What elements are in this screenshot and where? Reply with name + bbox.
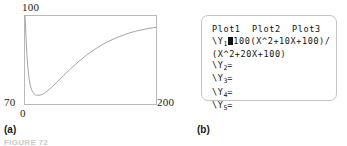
y1-entry-row[interactable]: \Y1100(X^2+10X+100)/	[212, 36, 336, 50]
y2-entry-row[interactable]: \Y2=	[212, 60, 336, 74]
y5-entry-row[interactable]: \Y5=	[212, 100, 336, 114]
y3-label: \Y3	[212, 73, 227, 83]
y2-equals: =	[227, 60, 233, 70]
plot-curve-svg	[24, 15, 157, 105]
plot-header-row[interactable]: Plot1 Plot2 Plot3	[212, 24, 336, 35]
y4-entry-row[interactable]: \Y4=	[212, 87, 336, 101]
curve-path	[25, 16, 156, 96]
y-axis-min-label: 70	[4, 96, 15, 108]
y5-label: \Y5	[212, 100, 227, 110]
figure-caption: FIGURE 72	[4, 138, 48, 146]
panel-a-graph: 100 70 0 200 (a) FIGURE 72	[0, 0, 175, 146]
y1-entry-row-continued[interactable]: (X^2+20X+100)	[212, 49, 336, 60]
x-axis-min-label: 0	[20, 107, 26, 119]
y1-label: \Y1	[212, 36, 227, 46]
y3-entry-row[interactable]: \Y3=	[212, 73, 336, 87]
panel-a-label: (a)	[4, 124, 16, 135]
y1-expression: 100(X^2+10X+100)/	[233, 36, 330, 46]
y-axis-max-label: 100	[22, 1, 39, 13]
y5-equals: =	[227, 100, 233, 110]
figure-container: 100 70 0 200 (a) FIGURE 72 Plot1 Plot2 P…	[0, 0, 347, 146]
calculator-screen[interactable]: Plot1 Plot2 Plot3 \Y1100(X^2+10X+100)/ (…	[201, 15, 337, 101]
y3-equals: =	[227, 73, 233, 83]
y4-label: \Y4	[212, 87, 227, 97]
y2-label: \Y2	[212, 60, 227, 70]
panel-b-calculator: Plot1 Plot2 Plot3 \Y1100(X^2+10X+100)/ (…	[175, 0, 347, 146]
y4-equals: =	[227, 87, 233, 97]
x-axis-max-label: 200	[157, 96, 174, 108]
panel-b-label: (b)	[197, 124, 210, 135]
y1-expression-wrap: (X^2+20X+100)	[212, 49, 286, 59]
